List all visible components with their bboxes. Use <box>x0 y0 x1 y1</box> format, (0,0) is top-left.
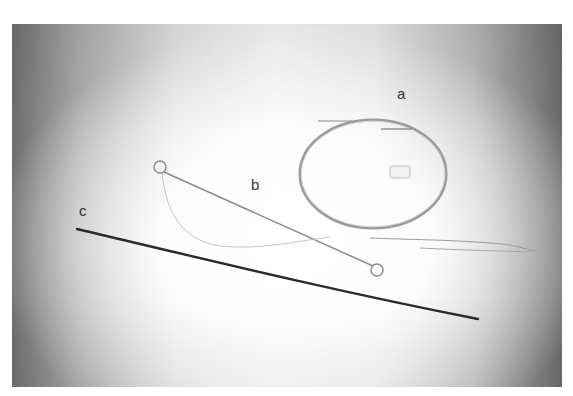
looped-wire-b <box>154 161 383 276</box>
label-a: a <box>397 86 405 101</box>
connector-a <box>390 166 410 178</box>
dark-rod-c <box>77 229 478 319</box>
label-c: c <box>79 203 87 218</box>
coiled-wire-a <box>300 120 537 252</box>
label-b: b <box>251 177 259 192</box>
device-drawing <box>0 0 573 396</box>
